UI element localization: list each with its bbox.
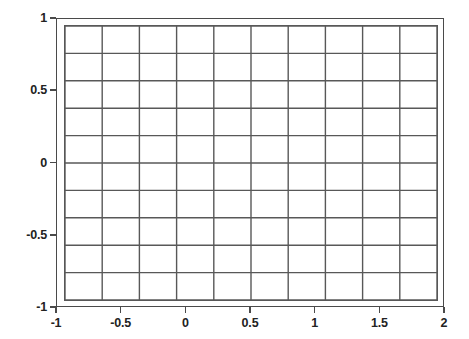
- x-axis-tick: [185, 307, 187, 313]
- x-axis-tick-label: 1.5: [371, 316, 388, 330]
- y-axis-tick: [50, 17, 56, 19]
- x-axis-tick-label: 0.5: [242, 316, 259, 330]
- y-axis-tick-label: 0.5: [30, 83, 47, 97]
- y-axis-tick-label: 1: [40, 11, 47, 25]
- y-axis-tick: [50, 234, 56, 236]
- x-axis-tick-label: 1: [311, 316, 318, 330]
- x-axis-tick-label: -1: [51, 316, 62, 330]
- x-axis-tick: [55, 307, 57, 313]
- x-axis-tick: [443, 307, 445, 313]
- x-axis-tick-label: 2: [441, 316, 448, 330]
- x-axis-tick-label: -0.5: [110, 316, 131, 330]
- grid-lines-svg: [65, 26, 437, 300]
- plot-figure: -1-0.500.511.52 10.50-0.5-1: [0, 0, 469, 339]
- y-axis-tick: [50, 89, 56, 91]
- y-axis-tick: [50, 162, 56, 164]
- x-axis-tick: [379, 307, 381, 313]
- plot-grid-region: [64, 25, 438, 301]
- y-axis-tick-label: -0.5: [26, 228, 47, 242]
- y-axis-tick-label: -1: [36, 300, 47, 314]
- x-axis-tick: [120, 307, 122, 313]
- y-axis-tick: [50, 306, 56, 308]
- x-axis-tick: [314, 307, 316, 313]
- x-axis-tick: [249, 307, 251, 313]
- y-axis-tick-label: 0: [40, 156, 47, 170]
- x-axis-tick-label: 0: [182, 316, 189, 330]
